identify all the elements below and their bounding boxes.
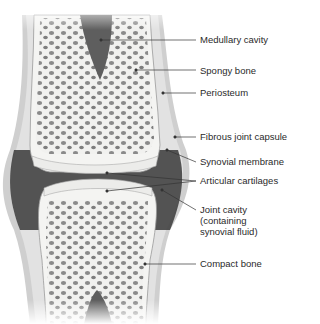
label-joint-cavity: Joint cavity (containing synovial fluid)	[200, 204, 258, 237]
label-medullary-cavity: Medullary cavity	[200, 34, 268, 45]
label-spongy-bone: Spongy bone	[200, 65, 256, 76]
label-articular-cartilages: Articular cartilages	[200, 175, 278, 186]
label-fibrous-joint-capsule: Fibrous joint capsule	[200, 131, 287, 142]
label-periosteum: Periosteum	[200, 87, 248, 98]
label-synovial-membrane: Synovial membrane	[200, 156, 284, 167]
label-compact-bone: Compact bone	[200, 258, 262, 269]
upper-bone	[30, 15, 160, 174]
